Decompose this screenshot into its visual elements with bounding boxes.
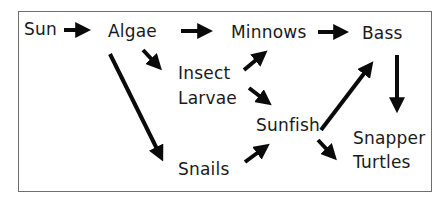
node-insect-larvae-line2: Larvae <box>178 86 237 110</box>
node-snails: Snails <box>178 157 230 181</box>
arrow-sunfish-to-bass <box>321 67 369 130</box>
arrow-algae-to-insect-larvae <box>143 50 157 65</box>
node-sunfish: Sunfish <box>256 113 320 137</box>
node-snapper-turtles-line1: Snapper <box>353 126 425 150</box>
node-algae: Algae <box>108 19 157 43</box>
node-sun: Sun <box>24 17 57 41</box>
arrow-snails-to-sunfish <box>245 148 264 162</box>
node-bass: Bass <box>362 21 403 45</box>
node-snapper-turtles-line2: Turtles <box>353 150 411 174</box>
node-insect-larvae-line1: Insect <box>178 61 230 85</box>
node-minnows: Minnows <box>231 20 307 44</box>
arrow-algae-to-snails <box>110 54 160 155</box>
arrow-sunfish-to-snapper-turtles <box>318 140 332 155</box>
arrow-insect-larvae-to-sunfish <box>249 88 266 101</box>
arrow-insect-larvae-to-minnows <box>244 55 262 70</box>
